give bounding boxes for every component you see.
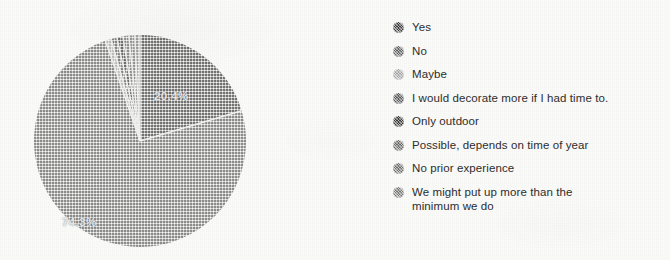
legend-item[interactable]: I would decorate more if I had time to. [393, 91, 658, 105]
legend-item[interactable]: No prior experience [393, 161, 658, 175]
legend-item[interactable]: We might put up more than theminimum we … [393, 185, 658, 213]
legend-item[interactable]: Maybe [393, 67, 658, 81]
legend-item-label: Possible, depends on time of year [412, 138, 589, 152]
legend-item[interactable]: Yes [393, 20, 658, 34]
legend-item-label: Only outdoor [412, 114, 479, 128]
legend-item[interactable]: No [393, 44, 658, 58]
legend-item-label-line2: minimum we do [412, 199, 573, 213]
legend-item-label: No [412, 44, 427, 58]
legend-item-label: Maybe [412, 67, 447, 81]
slice-label-yes: 20.4% [154, 90, 189, 102]
legend-item-label: I would decorate more if I had time to. [412, 91, 608, 105]
chart-page: 20.4% 74.3% YesNoMaybeI would decorate m… [0, 0, 670, 260]
legend-item-label: We might put up more than theminimum we … [412, 185, 573, 213]
legend-swatch-icon [393, 116, 404, 127]
legend-item[interactable]: Possible, depends on time of year [393, 138, 658, 152]
legend-swatch-icon [393, 93, 404, 104]
legend-swatch-icon [393, 46, 404, 57]
legend-item-label: No prior experience [412, 161, 514, 175]
pie-chart: 20.4% 74.3% [32, 33, 248, 249]
legend-item-label: Yes [412, 20, 431, 34]
legend-swatch-icon [393, 140, 404, 151]
legend-swatch-icon [393, 69, 404, 80]
slice-label-no: 74.3% [62, 216, 97, 228]
chart-legend: YesNoMaybeI would decorate more if I had… [393, 20, 658, 222]
legend-swatch-icon [393, 163, 404, 174]
legend-swatch-icon [393, 187, 404, 198]
legend-swatch-icon [393, 22, 404, 33]
legend-item[interactable]: Only outdoor [393, 114, 658, 128]
